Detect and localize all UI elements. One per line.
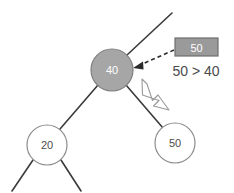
tree-node-50: 50 (155, 123, 195, 163)
node-label-40: 40 (106, 64, 118, 76)
edge-to-left-child (60, 85, 98, 129)
edge-left-grandchild-b (61, 160, 81, 191)
bst-diagram-canvas: 20 50 40 50 50 > 40 (0, 0, 234, 193)
node-label-20: 20 (41, 139, 53, 151)
insert-box-label: 50 (190, 42, 202, 54)
traverse-right-arrow (142, 79, 169, 110)
tree-node-20: 20 (27, 125, 67, 165)
tree-node-40-current: 40 (91, 49, 133, 91)
bst-insert-diagram: 20 50 40 50 50 > 40 (0, 0, 234, 193)
node-label-50: 50 (169, 137, 181, 149)
comparison-text: 50 > 40 (172, 63, 219, 79)
tree-edges (12, 13, 172, 191)
compare-arrow (133, 50, 174, 70)
edge-left-grandchild-a (12, 160, 33, 191)
edge-parent-up (127, 13, 172, 55)
insert-value-box: 50 (175, 38, 218, 56)
